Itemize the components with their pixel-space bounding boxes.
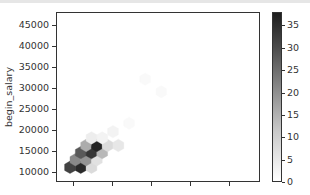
y-tick-mark: [52, 67, 56, 68]
x-tick-mark: [112, 182, 113, 186]
x-tick-mark: [151, 182, 152, 186]
colorbar-tick-mark: [282, 115, 285, 116]
x-tick-mark: [73, 182, 74, 186]
y-tick-mark: [52, 151, 56, 152]
y-tick-mark: [52, 130, 56, 131]
top-edge-strip: [0, 0, 310, 3]
y-tick-label: 10000: [0, 167, 49, 177]
colorbar-tick-mark: [282, 93, 285, 94]
y-axis-title: begin_salary: [3, 67, 14, 127]
hexbin-cell: [140, 73, 151, 85]
x-tick-mark: [229, 182, 230, 186]
x-tick-mark: [190, 182, 191, 186]
colorbar-tick-label: 0: [287, 177, 293, 187]
colorbar-tick-mark: [282, 70, 285, 71]
hexbin-cell: [108, 125, 119, 137]
y-tick-mark: [52, 109, 56, 110]
y-tick-label: 15000: [0, 146, 49, 156]
colorbar-tick-mark: [282, 182, 285, 183]
colorbar-tick-mark: [282, 137, 285, 138]
colorbar-tick-mark: [282, 48, 285, 49]
colorbar-tick-label: 10: [287, 132, 299, 142]
colorbar-tick-label: 35: [287, 20, 299, 30]
colorbar-tick-label: 20: [287, 88, 299, 98]
colorbar-tick-mark: [282, 25, 285, 26]
hexbin-cell: [124, 117, 135, 129]
colorbar-tick-label: 5: [287, 155, 293, 165]
colorbar-tick-label: 25: [287, 65, 299, 75]
y-tick-label: 40000: [0, 41, 49, 51]
colorbar-tick-label: 30: [287, 43, 299, 53]
y-tick-mark: [52, 88, 56, 89]
hexbin-cell: [156, 86, 167, 98]
y-tick-label: 45000: [0, 20, 49, 30]
colorbar-tick-label: 15: [287, 110, 299, 120]
y-tick-mark: [52, 46, 56, 47]
hexbin-cell: [113, 139, 124, 151]
y-tick-mark: [52, 25, 56, 26]
y-tick-mark: [52, 172, 56, 173]
colorbar-tick-mark: [282, 160, 285, 161]
colorbar: [272, 12, 282, 182]
hexbin-layer: [56, 12, 260, 182]
